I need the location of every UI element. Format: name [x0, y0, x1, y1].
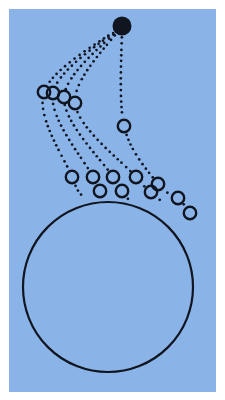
- trajectory-dot: [98, 40, 101, 43]
- trajectory-dot: [145, 167, 148, 170]
- trajectory-dot: [85, 126, 88, 129]
- trajectory-dot: [55, 115, 58, 118]
- trajectory-dot: [95, 155, 98, 158]
- trajectory-dot: [60, 154, 63, 157]
- trajectory-dot: [91, 53, 94, 56]
- trajectory-dot: [88, 47, 91, 50]
- trajectory-dot: [42, 107, 45, 110]
- trajectory-dot: [112, 154, 115, 157]
- trajectory-dot: [83, 162, 86, 165]
- trajectory-dot: [129, 143, 132, 146]
- trajectory-dot: [121, 111, 124, 114]
- trajectory-dot: [86, 167, 89, 170]
- trajectory-dot: [120, 95, 123, 98]
- trajectory-dot: [102, 47, 105, 50]
- trajectory-dot: [53, 108, 56, 111]
- trajectory-dot: [60, 76, 63, 79]
- trajectory-dot: [158, 199, 161, 202]
- trajectory-dot: [119, 77, 122, 80]
- trajectory-dot: [67, 68, 70, 71]
- trajectory-dot: [73, 73, 76, 76]
- trajectory-dot: [75, 60, 78, 63]
- trajectory-diagram: [0, 0, 225, 400]
- trajectory-dot: [52, 76, 55, 79]
- trajectory-dot: [102, 39, 105, 42]
- trajectory-dot: [106, 43, 109, 46]
- trajectory-dot: [125, 166, 128, 169]
- trajectory-dot: [120, 54, 123, 57]
- trajectory-dot: [106, 168, 109, 171]
- trajectory-dot: [89, 64, 92, 67]
- trajectory-dot: [68, 61, 71, 64]
- trajectory-dot: [63, 72, 66, 75]
- trajectory-dot: [92, 151, 95, 154]
- trajectory-dot: [83, 73, 86, 76]
- trajectory-dot: [50, 134, 53, 137]
- trajectory-dot: [93, 43, 96, 46]
- launch-point-layer: [113, 17, 132, 36]
- trajectory-dot: [113, 34, 116, 37]
- trajectory-dot: [46, 125, 49, 128]
- trajectory-dot: [120, 89, 123, 92]
- trajectory-dot: [86, 69, 89, 72]
- trajectory-dot: [135, 153, 138, 156]
- trajectory-dot: [41, 102, 44, 105]
- trajectory-dot: [52, 103, 55, 106]
- trajectory-dot: [82, 122, 85, 125]
- trajectory-dot: [79, 57, 82, 60]
- trajectory-dot: [127, 198, 130, 201]
- trajectory-dot: [116, 158, 119, 161]
- trajectory-dot: [120, 100, 123, 103]
- trajectory-dot: [70, 120, 73, 123]
- trajectory-dot: [77, 152, 80, 155]
- trajectory-dot: [85, 142, 88, 145]
- trajectory-dot: [80, 65, 83, 68]
- trajectory-dot: [57, 119, 60, 122]
- trajectory-dot: [66, 165, 69, 168]
- trajectory-dot: [76, 111, 79, 114]
- trajectory-dot: [79, 133, 82, 136]
- trajectory-dot: [138, 158, 141, 161]
- trajectory-dot: [83, 50, 86, 53]
- trajectory-dot: [141, 163, 144, 166]
- trajectory-dot: [83, 60, 86, 63]
- trajectory-dot: [74, 185, 77, 188]
- trajectory-dot: [59, 69, 62, 72]
- trajectory-dot: [120, 59, 123, 62]
- trajectory-dot: [80, 193, 83, 196]
- trajectory-dot: [87, 56, 90, 59]
- trajectory-dot: [60, 124, 63, 127]
- trajectory-dot: [65, 109, 68, 112]
- trajectory-dot: [80, 156, 83, 159]
- trajectory-dot: [70, 64, 73, 67]
- trajectory-dot: [55, 73, 58, 76]
- trajectory-dot: [96, 138, 99, 141]
- trajectory-dot: [88, 49, 91, 52]
- trajectory-dot: [84, 53, 87, 56]
- trajectory-dot: [65, 134, 68, 137]
- trajectory-dot: [166, 191, 169, 194]
- trajectory-dot: [104, 147, 107, 150]
- trajectory-dot: [108, 150, 111, 153]
- trajectory-dot: [148, 171, 151, 174]
- trajectory-dot: [89, 147, 92, 150]
- trajectory-dot: [56, 81, 59, 84]
- trajectory-dot: [82, 138, 85, 141]
- trajectory-dot: [121, 36, 124, 39]
- trajectory-dot: [103, 164, 106, 167]
- trajectory-dot: [92, 134, 95, 137]
- trajectory-dot: [125, 134, 128, 137]
- trajectory-dot: [96, 56, 99, 59]
- trajectory-dot: [120, 106, 123, 109]
- trajectory-dot: [68, 115, 71, 118]
- trajectory-dot: [99, 51, 102, 54]
- trajectory-dot: [120, 42, 123, 45]
- trajectory-dot: [45, 120, 48, 123]
- trajectory-dot: [120, 161, 123, 164]
- trajectory-dot: [70, 77, 73, 80]
- trajectory-dot: [103, 42, 106, 45]
- trajectory-dot: [57, 149, 60, 152]
- trajectory-dot: [53, 139, 56, 142]
- trajectory-dot: [48, 130, 51, 133]
- trajectory-dot: [89, 130, 92, 133]
